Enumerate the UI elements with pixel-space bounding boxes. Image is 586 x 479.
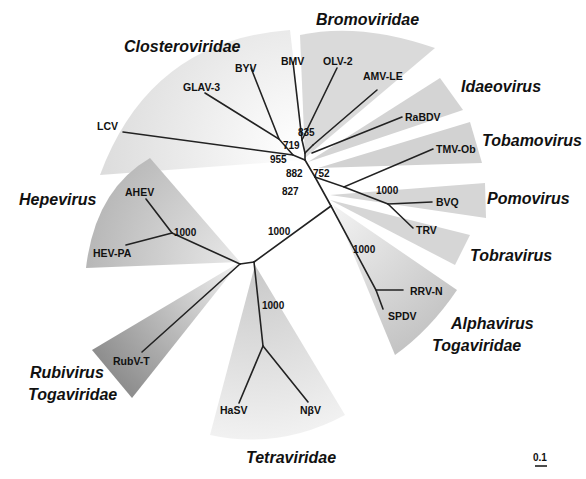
taxon-spdv: SPDV: [388, 310, 417, 322]
group-tetraviridae: Tetraviridae: [246, 449, 336, 466]
bootstrap-955: 955: [270, 154, 287, 165]
bootstrap-752: 752: [313, 168, 330, 179]
bootstrap-1000-tetra: 1000: [262, 300, 285, 311]
taxon-trv: TRV: [416, 224, 437, 236]
taxon-tmvob: TMV-Ob: [436, 143, 476, 155]
group-tobravirus: Tobravirus: [470, 247, 552, 264]
taxon-hevpa: HEV-PA: [93, 247, 132, 259]
scale-bar-label: 0.1: [533, 452, 547, 463]
scale-bar: 0.1: [533, 452, 547, 466]
bootstrap-719: 719: [283, 140, 300, 151]
group-tobamovirus: Tobamovirus: [482, 132, 582, 149]
taxon-lcv: LCV: [97, 120, 118, 132]
bootstrap-1000-alpha: 1000: [353, 244, 376, 255]
group-alphavirus-family: Togaviridae: [432, 337, 521, 354]
taxon-rubvt: RubV-T: [113, 355, 150, 367]
taxon-rrvn: RRV-N: [410, 285, 442, 297]
phylogenetic-tree: LCV GLAV-3 BYV BMV OLV-2 AMV-LE RaBDV TM…: [0, 0, 586, 479]
group-rubivirus-family: Togaviridae: [28, 386, 117, 403]
bootstrap-1000-central: 1000: [268, 226, 291, 237]
sector-pomovirus: [330, 183, 486, 218]
taxon-bmv: BMV: [281, 55, 304, 67]
taxon-ahev: AHEV: [125, 186, 154, 198]
taxon-hasv: HaSV: [220, 404, 247, 416]
bootstrap-1000-pomo-tobra: 1000: [376, 185, 399, 196]
taxon-amvle: AMV-LE: [363, 70, 403, 82]
group-pomovirus: Pomovirus: [487, 190, 570, 207]
taxon-nbv: NβV: [300, 404, 321, 416]
group-idaeovirus: Idaeovirus: [461, 78, 541, 95]
bootstrap-835: 835: [298, 127, 315, 138]
taxon-glav3: GLAV-3: [183, 81, 220, 93]
group-alphavirus: Alphavirus: [450, 315, 534, 332]
bootstrap-827: 827: [282, 186, 299, 197]
bootstrap-882: 882: [286, 168, 303, 179]
group-hepevirus: Hepevirus: [19, 191, 96, 208]
taxon-rabdv: RaBDV: [405, 111, 441, 123]
bootstrap-1000-hepe: 1000: [174, 227, 197, 238]
group-closteroviridae: Closteroviridae: [124, 38, 241, 55]
taxon-byv: BYV: [235, 62, 257, 74]
group-bromoviridae: Bromoviridae: [316, 11, 419, 28]
taxon-bvq: BVQ: [436, 196, 459, 208]
taxon-olv2: OLV-2: [323, 55, 353, 67]
group-rubivirus: Rubivirus: [30, 364, 104, 381]
